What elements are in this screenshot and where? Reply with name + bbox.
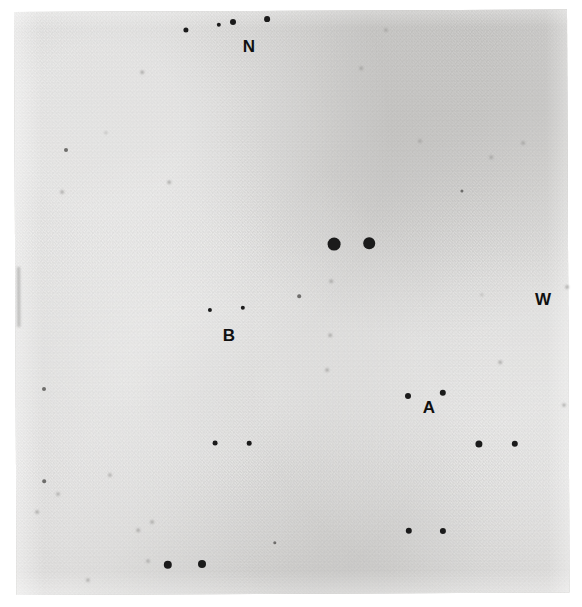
- label-a: A: [423, 399, 435, 416]
- star-point: [42, 387, 46, 391]
- star-point: [330, 280, 333, 283]
- star-point: [141, 71, 144, 74]
- star-point: [363, 237, 375, 249]
- star-point: [168, 181, 171, 184]
- star-point: [151, 521, 154, 524]
- photographic-plate: [14, 10, 570, 595]
- star-point: [213, 441, 218, 446]
- star-point: [147, 560, 150, 563]
- star-point: [563, 404, 566, 407]
- star-point: [64, 148, 68, 152]
- star-point: [198, 560, 206, 568]
- star-point: [499, 361, 502, 364]
- star-point: [328, 238, 341, 251]
- star-point: [490, 156, 493, 159]
- star-point: [566, 286, 569, 289]
- star-point: [61, 191, 64, 194]
- star-point: [522, 142, 525, 145]
- star-point: [329, 334, 332, 337]
- star-point: [230, 19, 236, 25]
- star-point: [264, 16, 270, 22]
- star-point: [360, 67, 363, 70]
- star-point: [247, 441, 252, 446]
- astronomical-plate-figure: NWBA: [0, 0, 582, 607]
- plate-vignette: [14, 10, 570, 595]
- plate-edge-streak: [17, 267, 20, 327]
- label-b: B: [223, 327, 235, 344]
- star-point: [405, 393, 411, 399]
- label-w: W: [535, 291, 551, 308]
- star-point: [57, 493, 60, 496]
- star-point: [297, 294, 301, 298]
- label-n: N: [243, 38, 255, 55]
- star-point: [42, 479, 46, 483]
- star-point: [326, 369, 329, 372]
- star-point: [137, 529, 140, 532]
- star-point: [36, 511, 39, 514]
